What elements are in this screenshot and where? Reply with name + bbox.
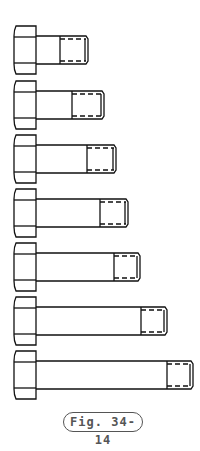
figure-caption: Fig. 34-14 xyxy=(63,412,143,432)
bolt-2 xyxy=(14,81,104,129)
bolt-7 xyxy=(14,351,193,399)
bolt-6 xyxy=(14,297,167,345)
bolt-3 xyxy=(14,135,116,183)
bolt-diagram xyxy=(0,0,200,451)
bolt-5 xyxy=(14,243,140,291)
bolt-4 xyxy=(14,189,128,237)
bolt-1 xyxy=(14,26,88,74)
